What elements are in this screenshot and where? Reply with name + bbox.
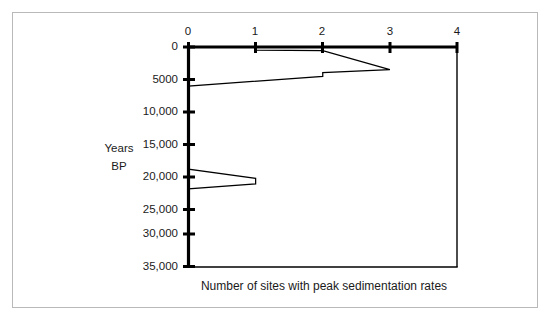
y-tick-label-5000: 5000 <box>152 74 178 86</box>
y-tick-label-25000: 25,000 <box>143 204 178 216</box>
y-tick-label-30000: 30,000 <box>143 228 178 240</box>
x-tick-label-1: 1 <box>252 26 258 38</box>
chart-figure: 0 1 2 3 4 0 5000 10,000 15,000 20,000 25… <box>0 0 551 321</box>
y-tick-label-0: 0 <box>172 41 178 53</box>
x-tick-label-3: 3 <box>387 26 393 38</box>
y-axis-title: Years BP <box>88 140 150 176</box>
x-tick-label-2: 2 <box>319 26 325 38</box>
x-tick-label-4: 4 <box>454 26 460 38</box>
y-axis-title-line2: BP <box>88 158 150 176</box>
y-tick-label-10000: 10,000 <box>143 106 178 118</box>
x-axis-title: Number of sites with peak sedimentation … <box>188 279 460 293</box>
y-tick-label-35000: 35,000 <box>143 261 178 273</box>
y-axis-title-line1: Years <box>105 142 134 154</box>
plot-area <box>0 0 551 321</box>
data-series-line <box>189 47 390 267</box>
x-tick-label-0: 0 <box>185 26 191 38</box>
